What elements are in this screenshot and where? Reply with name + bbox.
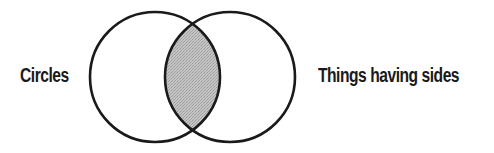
label-circles: Circles [20,65,69,85]
venn-diagram: Circles Things having sides [0,0,494,153]
label-things-having-sides: Things having sides [318,65,459,85]
